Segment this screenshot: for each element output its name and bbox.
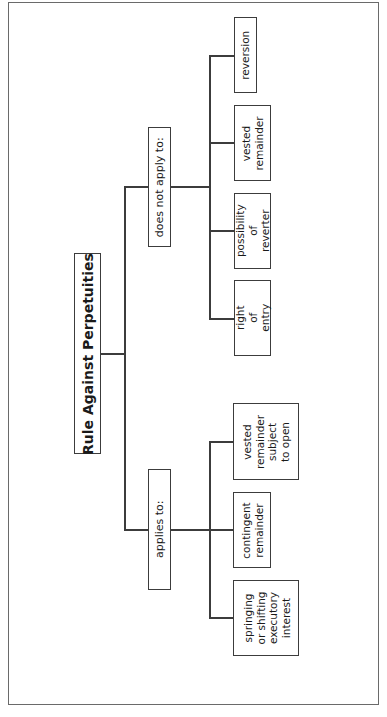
child-connector bbox=[209, 617, 234, 619]
node-possibility-of-reverter: possibility of reverter bbox=[234, 193, 271, 269]
node-label: reversion bbox=[239, 30, 252, 79]
not-apply-children-bar bbox=[209, 55, 211, 319]
branch-applies: applies to: bbox=[148, 469, 171, 590]
node-vested-remainder: vested remainder bbox=[234, 105, 271, 181]
diagram-frame bbox=[8, 2, 379, 705]
root-label: Rule Against Perpetuities bbox=[80, 253, 96, 455]
not-apply-connector bbox=[171, 186, 210, 188]
branch-label: applies to: bbox=[153, 501, 166, 559]
child-connector bbox=[209, 55, 234, 57]
child-connector bbox=[209, 441, 234, 443]
trunk-to-applies bbox=[124, 529, 149, 531]
applies-children-bar bbox=[209, 441, 211, 618]
branch-label: does not apply to: bbox=[153, 137, 166, 237]
node-springing-or-shifting-executory-interest: springing or shifting executory interest bbox=[233, 580, 299, 656]
node-label: right of entry bbox=[234, 301, 272, 336]
child-connector bbox=[209, 230, 234, 232]
child-connector bbox=[209, 318, 234, 320]
node-label: contingent remainder bbox=[240, 502, 265, 558]
node-right-of-entry: right of entry bbox=[234, 280, 271, 356]
root-connector bbox=[100, 353, 125, 355]
node-contingent-remainder: contingent remainder bbox=[233, 492, 271, 568]
branch-does-not-apply: does not apply to: bbox=[148, 127, 171, 247]
root-node: Rule Against Perpetuities bbox=[74, 253, 101, 454]
node-vested-remainder-subject-to-open: vested remainder subject to open bbox=[233, 403, 299, 480]
node-label: vested remainder subject to open bbox=[241, 414, 291, 468]
node-label: possibility of reverter bbox=[234, 205, 272, 258]
node-label: vested remainder bbox=[240, 116, 265, 170]
applies-connector bbox=[171, 529, 234, 531]
child-connector bbox=[209, 142, 234, 144]
node-label: springing or shifting executory interest bbox=[241, 592, 291, 645]
node-reversion: reversion bbox=[234, 17, 257, 93]
main-trunk bbox=[124, 186, 126, 530]
trunk-to-not-apply bbox=[124, 186, 149, 188]
